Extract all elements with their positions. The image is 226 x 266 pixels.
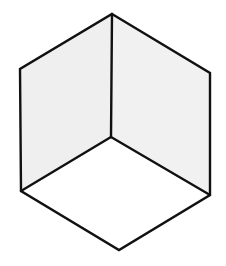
cube-diagram xyxy=(0,0,226,266)
vertical-corner-edge xyxy=(111,14,112,137)
isometric-cube-figure xyxy=(0,0,226,266)
